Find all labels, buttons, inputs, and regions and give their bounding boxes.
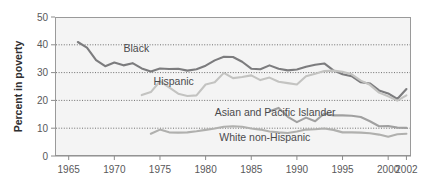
poverty-rate-line-chart: 01020304050 1965197019751980198519901995…: [0, 0, 433, 190]
y-tick-label-30: 30: [37, 67, 49, 78]
series-label-hispanic: Hispanic: [154, 75, 194, 87]
y-axis-title: Percent in poverty: [12, 41, 24, 133]
series-label-white-non-hispanic: White non-Hispanic: [219, 131, 310, 143]
chart-canvas: 01020304050 1965197019751980198519901995…: [0, 0, 433, 190]
x-axis-ticks: 196519701975198019851990199520002002: [55, 156, 418, 175]
y-tick-label-10: 10: [37, 123, 49, 134]
x-tick-label-1975: 1975: [149, 164, 172, 175]
x-tick-label-2002: 2002: [395, 164, 418, 175]
x-tick-label-1980: 1980: [194, 164, 217, 175]
x-tick-label-1965: 1965: [58, 164, 81, 175]
x-tick-label-1995: 1995: [331, 164, 354, 175]
y-tick-label-50: 50: [37, 12, 49, 23]
y-tick-label-0: 0: [42, 151, 48, 162]
x-tick-label-1985: 1985: [240, 164, 263, 175]
y-axis-ticks: 01020304050: [37, 12, 55, 162]
x-tick-label-1970: 1970: [103, 164, 126, 175]
series-label-asian-and-pacific-islander: Asian and Pacific Islander: [215, 106, 336, 118]
y-tick-label-20: 20: [37, 95, 49, 106]
y-tick-label-40: 40: [37, 39, 49, 50]
x-tick-label-1990: 1990: [286, 164, 309, 175]
series-label-black: Black: [123, 42, 149, 54]
